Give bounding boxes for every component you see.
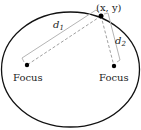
ellipse-diagram: (x, y) d1 d2 Focus Focus <box>0 0 141 130</box>
point-xy-label: (x, y) <box>96 2 122 13</box>
focus-right-label: Focus <box>99 72 129 83</box>
focus-left-marker <box>25 63 29 67</box>
point-xy-marker <box>99 14 104 19</box>
focus-left-label: Focus <box>13 72 43 83</box>
ellipse <box>2 12 140 127</box>
dashed-line-d1 <box>27 16 101 65</box>
d1-label: d1 <box>53 19 64 32</box>
focus-right-marker <box>112 64 116 68</box>
bracket-d1 <box>22 10 99 62</box>
